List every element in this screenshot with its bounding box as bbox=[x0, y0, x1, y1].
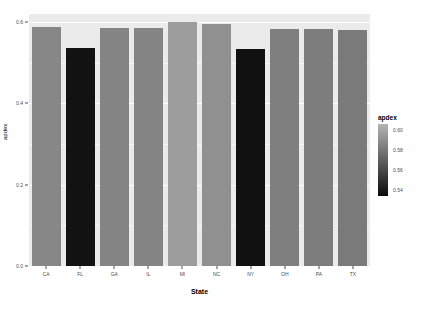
y-tick-mark bbox=[25, 103, 28, 104]
x-tick-label-il: IL bbox=[146, 271, 150, 277]
legend-tick-mark bbox=[388, 150, 391, 151]
bar-oh[interactable] bbox=[270, 29, 299, 266]
x-tick-mark bbox=[80, 266, 81, 269]
y-tick-label: 0.2 bbox=[16, 182, 23, 188]
y-tick-label: 0.0 bbox=[16, 263, 23, 269]
x-tick-mark bbox=[182, 266, 183, 269]
x-tick-label-oh: OH bbox=[281, 271, 289, 277]
bar-ga[interactable] bbox=[100, 28, 129, 266]
legend-tick-mark bbox=[388, 190, 391, 191]
plot-panel bbox=[29, 14, 370, 266]
bar-ca[interactable] bbox=[32, 27, 61, 266]
x-tick-label-mi: MI bbox=[180, 271, 186, 277]
y-tick-mark bbox=[25, 266, 28, 267]
x-tick-label-pa: PA bbox=[316, 271, 322, 277]
legend-tick-label: 0.58 bbox=[393, 147, 403, 153]
legend-title: apdex bbox=[378, 114, 428, 121]
x-tick-label-ga: GA bbox=[111, 271, 118, 277]
x-tick-label-ca: CA bbox=[43, 271, 50, 277]
legend: apdex 0.600.580.560.54 bbox=[378, 114, 428, 196]
x-tick-mark bbox=[46, 266, 47, 269]
legend-tick-label: 0.56 bbox=[393, 167, 403, 173]
bar-nc[interactable] bbox=[202, 24, 231, 266]
legend-body: 0.600.580.560.54 bbox=[378, 124, 428, 196]
y-tick-label: 0.6 bbox=[16, 19, 23, 25]
x-tick-label-fl: FL bbox=[77, 271, 83, 277]
x-tick-mark bbox=[352, 266, 353, 269]
gridline-major bbox=[29, 22, 370, 23]
x-axis: CAFLGAILMINCNYOHPATX bbox=[29, 266, 370, 286]
bar-chart: 0.00.20.40.6 apdex CAFLGAILMINCNYOHPATX … bbox=[0, 0, 429, 312]
x-tick-label-ny: NY bbox=[247, 271, 254, 277]
legend-tick-label: 0.54 bbox=[393, 187, 403, 193]
bar-tx[interactable] bbox=[338, 30, 367, 266]
bar-il[interactable] bbox=[134, 28, 163, 266]
x-axis-label: State bbox=[29, 288, 370, 295]
bar-mi[interactable] bbox=[168, 22, 197, 266]
legend-colorbar bbox=[378, 124, 388, 196]
x-tick-label-tx: TX bbox=[350, 271, 356, 277]
legend-tick-mark bbox=[388, 170, 391, 171]
legend-tick-mark bbox=[388, 130, 391, 131]
y-tick-label: 0.4 bbox=[16, 100, 23, 106]
bar-pa[interactable] bbox=[304, 29, 333, 266]
x-tick-mark bbox=[318, 266, 319, 269]
bar-fl[interactable] bbox=[66, 48, 95, 266]
y-tick-mark bbox=[25, 22, 28, 23]
x-tick-mark bbox=[114, 266, 115, 269]
bar-ny[interactable] bbox=[236, 49, 265, 266]
legend-tick-label: 0.60 bbox=[393, 127, 403, 133]
x-tick-mark bbox=[250, 266, 251, 269]
y-tick-mark bbox=[25, 184, 28, 185]
x-tick-mark bbox=[216, 266, 217, 269]
x-tick-mark bbox=[284, 266, 285, 269]
y-axis: 0.00.20.40.6 bbox=[0, 14, 29, 266]
x-tick-label-nc: NC bbox=[213, 271, 220, 277]
y-axis-label: apdex bbox=[2, 124, 8, 140]
x-tick-mark bbox=[148, 266, 149, 269]
